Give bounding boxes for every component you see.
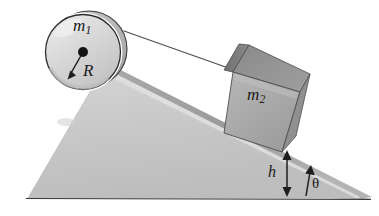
label-m2-base: m: [247, 85, 259, 104]
label-m2: m2: [247, 86, 265, 106]
connecting-cord: [124, 31, 234, 70]
label-radius: R: [83, 62, 93, 79]
label-m1-subscript: 1: [86, 24, 92, 37]
block-m2: [224, 44, 310, 152]
diagram-canvas: [0, 0, 379, 216]
ground-baseline: [26, 199, 371, 200]
cylinder-center-dot: [78, 47, 88, 57]
label-m1: m1: [73, 17, 91, 37]
label-height: h: [268, 164, 276, 180]
physics-diagram-figure: m1 R m2 h θ: [0, 0, 379, 216]
cord-line: [124, 31, 234, 70]
label-angle: θ: [312, 176, 319, 191]
label-m2-subscript: 2: [260, 93, 266, 106]
label-m1-base: m: [73, 16, 85, 35]
